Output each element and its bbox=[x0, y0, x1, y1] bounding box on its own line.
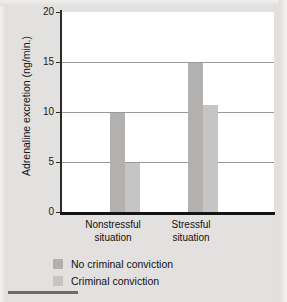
page-edge-left bbox=[0, 0, 7, 302]
bar-stressful-criminal-conviction bbox=[203, 105, 218, 213]
legend-item-criminal-conviction: Criminal conviction bbox=[53, 273, 253, 288]
legend-item-no-criminal-conviction: No criminal conviction bbox=[53, 256, 253, 271]
legend-label: No criminal conviction bbox=[71, 258, 173, 270]
gridline-10 bbox=[62, 112, 274, 113]
y-tick-label-20: 20 bbox=[30, 7, 54, 17]
x-category-line-2: situation bbox=[143, 232, 239, 245]
bar-stressful-no-criminal-conviction bbox=[188, 63, 203, 213]
legend-swatch-icon bbox=[53, 259, 63, 269]
bottom-rule bbox=[8, 291, 78, 294]
y-axis-tick-labels: 20 15 10 5 0 bbox=[28, 0, 54, 230]
y-tick-label-15: 15 bbox=[30, 57, 54, 67]
legend-swatch-icon bbox=[53, 276, 63, 286]
y-tick-label-0: 0 bbox=[30, 207, 54, 217]
legend: No criminal conviction Criminal convicti… bbox=[53, 256, 253, 290]
x-axis-line bbox=[60, 212, 275, 215]
legend-label: Criminal conviction bbox=[71, 275, 159, 287]
x-category-label-stressful: Stressful situation bbox=[143, 219, 239, 244]
bar-nonstressful-criminal-conviction bbox=[125, 163, 140, 213]
x-category-line-1: Stressful bbox=[172, 219, 211, 230]
y-tick-label-10: 10 bbox=[30, 107, 54, 117]
bar-nonstressful-no-criminal-conviction bbox=[110, 113, 125, 213]
plot-area bbox=[62, 12, 274, 213]
x-category-line-1: Nonstressful bbox=[85, 219, 141, 230]
page-edge-right bbox=[279, 0, 287, 302]
gridline-15 bbox=[62, 62, 274, 63]
y-axis-line bbox=[60, 10, 62, 215]
y-tick-label-5: 5 bbox=[30, 157, 54, 167]
gridline-5 bbox=[62, 162, 274, 163]
figure: Adrenaline excretion (ng/min.) 20 15 10 … bbox=[0, 0, 287, 302]
